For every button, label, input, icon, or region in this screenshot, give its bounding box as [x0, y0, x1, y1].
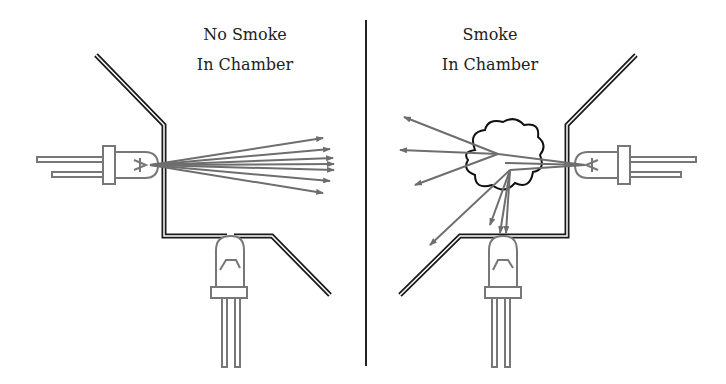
smoke-detector-diagram: No Smoke In Chamber Smoke In Chamber	[0, 0, 726, 384]
left-light-rays	[150, 138, 334, 193]
right-ir-emitter	[575, 146, 696, 184]
left-photodiode-receiver	[211, 236, 247, 367]
left-ir-emitter	[37, 146, 158, 184]
right-photodiode-receiver	[485, 236, 521, 367]
diagram-svg	[0, 0, 726, 384]
